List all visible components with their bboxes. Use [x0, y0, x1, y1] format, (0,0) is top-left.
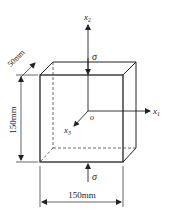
height-dimension-label: 150mm — [8, 106, 18, 134]
bottom-stress-label: σ — [92, 171, 98, 182]
x1-axis-label: x1 — [152, 106, 160, 117]
cube-right-face — [123, 62, 136, 162]
width-dimension-label: 150mm — [68, 190, 96, 200]
x3-axis-label: x3 — [63, 125, 71, 136]
x2-axis-label: x2 — [83, 12, 91, 23]
top-stress-label: σ — [92, 51, 98, 62]
x3-axis — [74, 111, 88, 126]
depth-dimension-line — [27, 63, 35, 71]
origin-label: o — [90, 113, 94, 122]
stress-cube-diagram: x2 x1 x3 o σ σ 150mm 150mm 50mm — [0, 0, 173, 217]
depth-dimension-label: 50mm — [6, 47, 27, 68]
